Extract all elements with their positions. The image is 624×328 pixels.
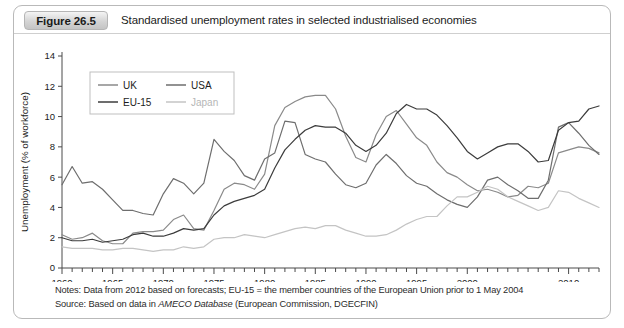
legend-label-japan: Japan — [191, 97, 218, 108]
series-line-usa — [62, 121, 599, 215]
figure-header: Figure 26.5 Standardised unemployment ra… — [14, 6, 610, 34]
y-tick-label: 2 — [50, 232, 55, 243]
series-line-japan — [62, 186, 599, 251]
figure-notes: Notes: Data from 2012 based on forecasts… — [55, 283, 600, 311]
legend-label-uk: UK — [123, 80, 137, 91]
x-tick-label: 1975 — [203, 277, 224, 282]
y-tick-label: 0 — [50, 262, 55, 273]
x-tick-label: 1990 — [355, 277, 376, 282]
chart-legend: UKUSAEU-15Japan — [90, 72, 234, 114]
unemployment-line-chart: 02468101214 1960196519701975198019851990… — [14, 34, 610, 282]
x-tick-label: 1980 — [254, 277, 275, 282]
x-tick-label: 2000 — [457, 277, 478, 282]
y-tick-label: 12 — [44, 81, 55, 92]
y-axis-title-label: Unemployment (% of workforce) — [19, 92, 30, 232]
series-line-eu-15 — [62, 104, 599, 242]
y-axis: 02468101214 — [44, 50, 62, 273]
figure-title: Standardised unemployment rates in selec… — [121, 12, 477, 29]
legend-label-usa: USA — [191, 80, 212, 91]
y-tick-label: 6 — [50, 172, 55, 183]
x-tick-label: 1960 — [51, 277, 72, 282]
series-line-uk — [62, 95, 599, 243]
chart-plot-area: 02468101214 1960196519701975198019851990… — [14, 34, 610, 282]
y-tick-label: 4 — [50, 202, 55, 213]
y-tick-label: 8 — [50, 141, 55, 152]
x-tick-label: 1995 — [406, 277, 427, 282]
y-axis-title: Unemployment (% of workforce) — [19, 92, 30, 232]
x-axis: 1960196519701975198019851990199520002010 — [51, 268, 599, 282]
notes-line: Notes: Data from 2012 based on forecasts… — [55, 283, 600, 297]
source-prefix: Source: Based on data in — [55, 299, 158, 309]
source-line: Source: Based on data in AMECO Database … — [55, 297, 600, 311]
y-tick-label: 14 — [44, 50, 55, 61]
figure-number-badge: Figure 26.5 — [24, 11, 108, 30]
x-tick-label: 1985 — [305, 277, 326, 282]
legend-label-eu-15: EU-15 — [123, 97, 152, 108]
figure-container: Figure 26.5 Standardised unemployment ra… — [13, 5, 611, 319]
x-tick-label: 1970 — [153, 277, 174, 282]
y-tick-label: 10 — [44, 111, 55, 122]
source-italic-title: AMECO Database — [158, 299, 232, 309]
series-lines — [62, 95, 599, 251]
x-tick-label: 2010 — [558, 277, 579, 282]
source-suffix: (European Commission, DGECFIN) — [233, 299, 378, 309]
x-tick-label: 1965 — [102, 277, 123, 282]
